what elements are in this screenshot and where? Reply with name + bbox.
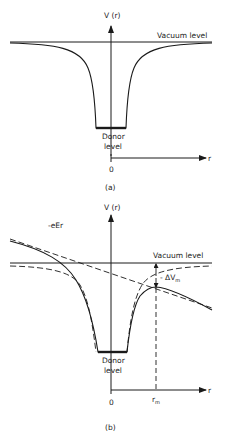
donor-label: Donor bbox=[102, 132, 126, 141]
potential-well-diagram: V (r) Vacuum level Donor level r 0 (a) V… bbox=[0, 0, 228, 447]
delta-v-label: - ΔVm bbox=[160, 273, 180, 283]
origin-label: 0 bbox=[109, 398, 114, 407]
caption-a: (a) bbox=[105, 183, 116, 192]
origin-label: 0 bbox=[109, 165, 114, 174]
caption-b: (b) bbox=[105, 423, 116, 432]
donor-label-2: level bbox=[104, 142, 122, 151]
r-axis-label: r bbox=[208, 154, 212, 163]
vacuum-level-label: Vacuum level bbox=[153, 251, 203, 260]
y-axis-label: V (r) bbox=[104, 203, 121, 212]
r-axis-label: r bbox=[208, 386, 212, 395]
rm-label: rm bbox=[152, 395, 160, 405]
donor-label-2: level bbox=[104, 366, 122, 375]
field-label: -eEr bbox=[48, 221, 64, 230]
vacuum-level-label: Vacuum level bbox=[157, 31, 207, 40]
panel-a: V (r) Vacuum level Donor level r 0 (a) bbox=[10, 11, 212, 192]
donor-label: Donor bbox=[102, 356, 126, 365]
y-axis-label: V (r) bbox=[104, 11, 121, 20]
panel-b: V (r) -eEr Vacuum level Donor level - ΔV… bbox=[10, 203, 212, 432]
